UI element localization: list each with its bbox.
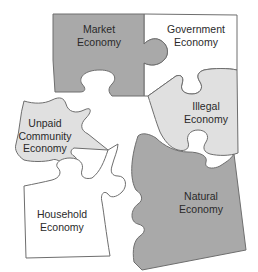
label-line: Economy [179, 203, 223, 216]
label-line: Government [167, 23, 225, 36]
label-line: Unpaid [18, 117, 71, 130]
label-natural-economy: Natural Economy [179, 190, 223, 215]
label-line: Economy [18, 142, 71, 155]
label-line: Economy [167, 36, 225, 49]
label-household-economy: Household Economy [37, 208, 87, 233]
label-line: Economy [37, 221, 87, 234]
label-line: Natural [179, 190, 223, 203]
label-line: Market [77, 23, 121, 36]
label-line: Illegal [184, 100, 228, 113]
label-government-economy: Government Economy [167, 23, 225, 48]
label-line: Household [37, 208, 87, 221]
label-illegal-economy: Illegal Economy [184, 100, 228, 125]
label-market-economy: Market Economy [77, 23, 121, 48]
label-line: Community [18, 130, 71, 143]
label-unpaid-community-economy: Unpaid Community Economy [18, 117, 71, 155]
label-line: Economy [77, 36, 121, 49]
label-line: Economy [184, 113, 228, 126]
